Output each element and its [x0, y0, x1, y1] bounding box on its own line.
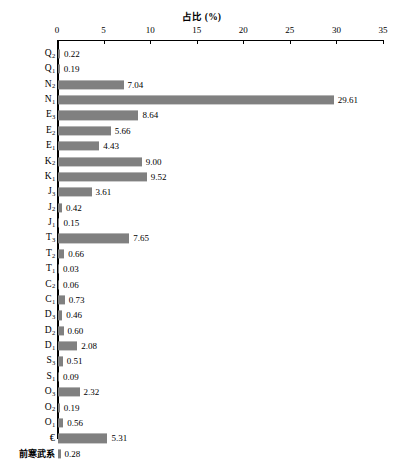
category-label: D3 [45, 311, 55, 321]
bar [58, 311, 62, 320]
category-label: E1 [46, 141, 55, 151]
bar [58, 403, 60, 412]
bar-row: E25.66 [0, 123, 403, 138]
category-label: J2 [48, 203, 55, 213]
bar [58, 142, 99, 151]
bar [58, 326, 64, 335]
x-tick-label: 10 [146, 25, 155, 35]
bar-row: N27.04 [0, 77, 403, 92]
category-label: D2 [45, 326, 55, 336]
category-label: C1 [45, 295, 55, 305]
bar-value-label: 0.73 [69, 295, 85, 304]
bar-value-label: 0.06 [63, 280, 79, 289]
bar-value-label: 29.61 [338, 96, 358, 105]
bar [58, 172, 147, 181]
bar [58, 95, 334, 104]
category-label: O1 [45, 418, 55, 428]
bar-row: Q20.22 [0, 46, 403, 61]
bar-value-label: 9.52 [151, 172, 167, 181]
bar [58, 65, 60, 74]
bar-row: D30.46 [0, 308, 403, 323]
x-tick-label: 0 [55, 25, 60, 35]
category-label: S3 [46, 357, 55, 367]
bar-row: J20.42 [0, 200, 403, 215]
category-label: K2 [45, 157, 55, 167]
bar-row: N129.61 [0, 92, 403, 107]
category-label: Q2 [45, 49, 55, 59]
chart-title: 占比 (%) [0, 9, 403, 23]
bar-value-label: 0.56 [67, 419, 83, 428]
bar-row: S30.51 [0, 354, 403, 369]
bar [58, 80, 124, 89]
bar-value-label: 5.31 [111, 434, 127, 443]
bar-value-label: 8.64 [142, 111, 158, 120]
bar-row: T37.65 [0, 231, 403, 246]
bar-value-label: 0.09 [63, 372, 79, 381]
bar-row: O20.19 [0, 400, 403, 415]
bar-row: D12.08 [0, 338, 403, 353]
bar-row: T10.03 [0, 262, 403, 277]
bar [58, 234, 129, 243]
bar [58, 188, 92, 197]
x-tick-label: 30 [332, 25, 341, 35]
bar-value-label: 0.15 [63, 219, 79, 228]
category-label: T3 [46, 234, 55, 244]
bar-row: C10.73 [0, 292, 403, 307]
category-label: T1 [46, 264, 55, 274]
bar-row: K19.52 [0, 169, 403, 184]
bar-value-label: 0.22 [64, 49, 80, 58]
category-label: E3 [46, 111, 55, 121]
bar-value-label: 0.51 [67, 357, 83, 366]
bar [58, 218, 59, 227]
x-tick-label: 5 [101, 25, 106, 35]
bar [58, 157, 142, 166]
bar-row: 前寒武系0.28 [0, 446, 403, 461]
x-tick-label: 15 [192, 25, 201, 35]
bar-value-label: 0.42 [66, 203, 82, 212]
category-label: D1 [45, 341, 55, 351]
category-label: Q1 [45, 65, 55, 75]
bar [58, 388, 80, 397]
category-label: € [50, 433, 55, 444]
category-label: N2 [45, 80, 55, 90]
bar [58, 342, 77, 351]
bar-value-label: 0.19 [64, 403, 80, 412]
bar [58, 280, 59, 289]
category-label: O3 [45, 387, 55, 397]
bar [58, 418, 63, 427]
bar-value-label: 0.60 [68, 326, 84, 335]
bar [58, 434, 107, 443]
bar [58, 295, 65, 304]
bar [58, 49, 60, 58]
category-label: T2 [46, 249, 55, 259]
bar-row: K29.00 [0, 154, 403, 169]
bar [58, 111, 138, 120]
bar-row: D20.60 [0, 323, 403, 338]
plot-area: Q20.22Q10.19N27.04N129.61E38.64E25.66E14… [0, 41, 403, 441]
bar-row: E14.43 [0, 138, 403, 153]
bar-row: S10.09 [0, 369, 403, 384]
bar-value-label: 4.43 [103, 142, 119, 151]
bar-value-label: 0.28 [65, 449, 81, 458]
category-label: 前寒武系 [19, 449, 55, 458]
bar [58, 203, 62, 212]
x-tick-label: 20 [239, 25, 248, 35]
bar [58, 372, 59, 381]
bar-row: €5.31 [0, 431, 403, 446]
x-tick-label: 25 [285, 25, 294, 35]
bar-value-label: 0.19 [64, 65, 80, 74]
bar-value-label: 7.04 [128, 80, 144, 89]
bar [58, 249, 64, 258]
bar-row: E38.64 [0, 108, 403, 123]
bar-row: J10.15 [0, 215, 403, 230]
category-label: K1 [45, 172, 55, 182]
bar-value-label: 3.61 [96, 188, 112, 197]
bar-value-label: 0.03 [63, 265, 79, 274]
category-label: S1 [46, 372, 55, 382]
bar-row: O32.32 [0, 385, 403, 400]
bar [58, 357, 63, 366]
category-label: N1 [45, 95, 55, 105]
bar-value-label: 2.32 [84, 388, 100, 397]
x-tick-label: 35 [379, 25, 388, 35]
